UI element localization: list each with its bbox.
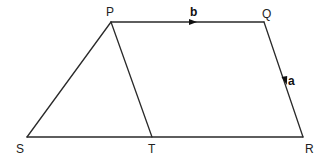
trapezium-diagram: P Q R S T b a [0,0,321,162]
label-s: S [16,142,24,156]
arrow-b-icon [189,19,197,25]
vector-label-b: b [190,5,197,19]
label-q: Q [262,7,271,21]
label-r: R [305,142,314,156]
segment-sp [27,22,111,137]
label-t: T [148,142,156,156]
label-p: P [106,5,114,19]
vector-label-a: a [288,74,295,88]
segment-pt [111,22,152,137]
